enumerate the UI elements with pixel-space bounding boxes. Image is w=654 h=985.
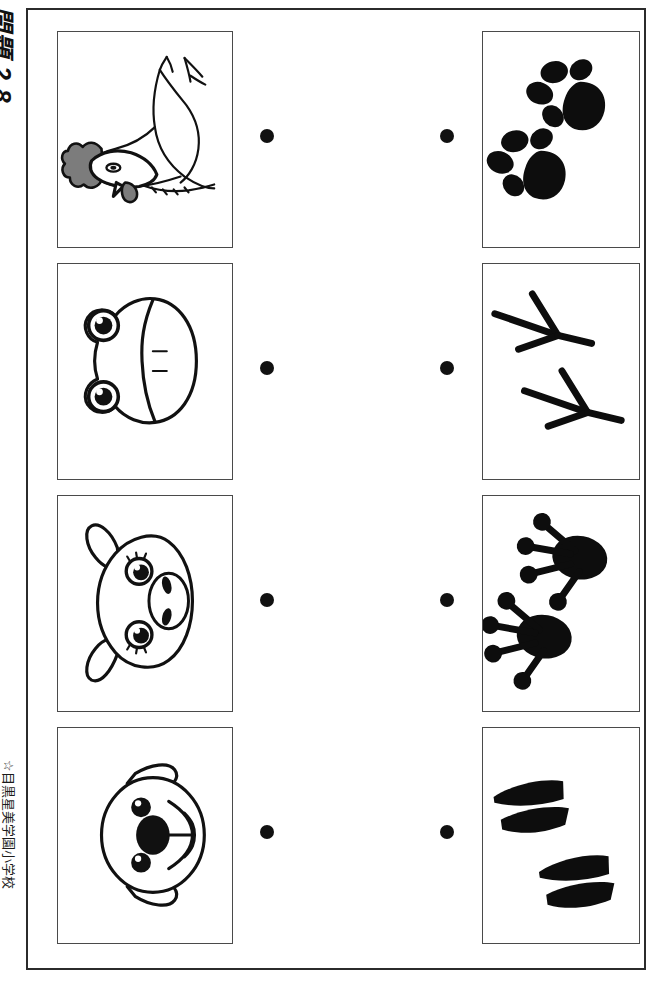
bird-foot-prints-illustration — [483, 264, 639, 479]
animal-box-pig[interactable] — [57, 495, 233, 712]
dog-illustration — [58, 728, 232, 943]
animal-box-frog[interactable] — [57, 263, 233, 480]
footprint-box-frog-tracks[interactable] — [482, 495, 640, 712]
connector-dot-left-4[interactable] — [260, 825, 274, 839]
animal-box-dog[interactable] — [57, 727, 233, 944]
pig-illustration — [58, 496, 232, 711]
animal-box-chicken[interactable] — [57, 31, 233, 248]
connector-dot-right-3[interactable] — [440, 593, 454, 607]
match-row-1 — [0, 23, 654, 255]
match-row-4 — [0, 719, 654, 951]
footprint-box-bird-tracks[interactable] — [482, 263, 640, 480]
match-row-2 — [0, 255, 654, 487]
dog-paw-prints-illustration — [483, 32, 639, 247]
connector-dot-left-3[interactable] — [260, 593, 274, 607]
connector-dot-right-4[interactable] — [440, 825, 454, 839]
footprint-box-dog-paws[interactable] — [482, 31, 640, 248]
match-row-3 — [0, 487, 654, 719]
frog-illustration — [58, 264, 232, 479]
frog-foot-prints-illustration — [483, 496, 639, 711]
connector-dot-right-1[interactable] — [440, 129, 454, 143]
footprint-box-pig-hooves[interactable] — [482, 727, 640, 944]
connector-dot-left-1[interactable] — [260, 129, 274, 143]
connector-dot-right-2[interactable] — [440, 361, 454, 375]
connector-dot-left-2[interactable] — [260, 361, 274, 375]
pig-hoof-prints-illustration — [483, 728, 639, 943]
chicken-illustration — [58, 32, 232, 247]
